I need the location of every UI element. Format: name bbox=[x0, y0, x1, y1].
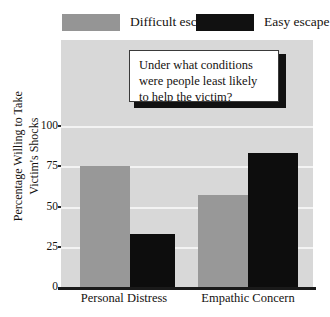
x-tick-label-empathic-concern: Empathic Concern bbox=[183, 292, 313, 306]
bar-empathic-concern-difficult-escape bbox=[198, 195, 248, 287]
legend-item-easy-escape: Easy escape bbox=[196, 12, 330, 32]
legend-label-easy-escape: Easy escape bbox=[264, 15, 330, 29]
x-axis-labels: Personal Distress Empathic Concern bbox=[61, 292, 313, 314]
gridline-100 bbox=[61, 126, 313, 128]
bar-personal-distress-difficult-escape bbox=[80, 166, 130, 287]
legend-swatch-grey-icon bbox=[62, 14, 120, 31]
bar-chart-figure: Difficult escape Easy escape 100 75 50 2… bbox=[0, 0, 330, 317]
bar-empathic-concern-easy-escape bbox=[248, 153, 298, 287]
callout-line-2: were people least likely bbox=[139, 73, 269, 89]
callout-line-3: to help the victim? bbox=[139, 89, 269, 105]
legend-swatch-black-icon bbox=[196, 14, 254, 31]
y-tick-label-0: 0 bbox=[24, 281, 58, 293]
y-axis-title-line-2: Victim's Shocks bbox=[26, 66, 42, 246]
legend-item-difficult-escape: Difficult escape bbox=[62, 12, 216, 32]
question-callout: Under what conditions were people least … bbox=[129, 50, 279, 102]
callout-line-1: Under what conditions bbox=[139, 57, 269, 73]
y-axis-title-line-1: Percentage Willing to Take bbox=[10, 66, 26, 246]
bar-personal-distress-easy-escape bbox=[130, 234, 175, 287]
y-axis-title: Percentage Willing to Take Victim's Shoc… bbox=[10, 66, 42, 246]
x-tick-label-personal-distress: Personal Distress bbox=[59, 292, 189, 306]
x-axis-line bbox=[58, 287, 316, 290]
